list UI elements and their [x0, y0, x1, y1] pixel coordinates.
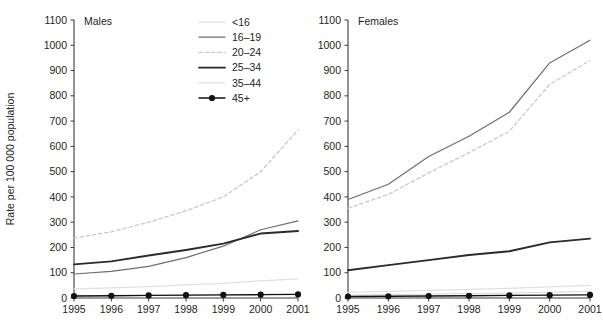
legend-label-25-34: 25–34: [232, 61, 261, 73]
series-marker-45+: [345, 293, 351, 299]
y-tick-label: 500: [323, 165, 341, 177]
y-tick-label: 800: [49, 89, 67, 101]
series-line-16-19: [74, 221, 298, 274]
y-tick-label: 0: [61, 292, 67, 304]
y-tick-label: 400: [49, 191, 67, 203]
y-tick-label: 500: [49, 165, 67, 177]
series-marker-45+: [258, 292, 264, 298]
x-tick-label: 1995: [62, 303, 86, 315]
x-tick-label: 2001: [286, 303, 310, 315]
y-tick-label: 400: [323, 191, 341, 203]
series-marker-45+: [183, 292, 189, 298]
x-tick-label: 1996: [377, 303, 401, 315]
y-tick-label: 100: [323, 266, 341, 278]
x-tick-label: 1996: [100, 303, 124, 315]
x-tick-label: 2001: [578, 303, 602, 315]
y-tick-label: 1000: [318, 39, 342, 51]
y-tick-label: 200: [49, 241, 67, 253]
x-tick-label: 2000: [538, 303, 562, 315]
y-tick-label: 800: [323, 89, 341, 101]
panel-title-males: Males: [84, 15, 112, 27]
y-tick-label: 700: [323, 115, 341, 127]
panel-females: 0100200300400500600700800900100011001995…: [318, 14, 602, 315]
x-tick-label: 1998: [174, 303, 198, 315]
series-marker-45+: [587, 292, 593, 298]
series-marker-45+: [506, 292, 512, 298]
legend-label-16-19: 16–19: [232, 31, 261, 43]
x-tick-label: 1997: [137, 303, 161, 315]
y-tick-label: 300: [49, 216, 67, 228]
legend-marker-45+: [209, 95, 215, 101]
figure-container: 0100200300400500600700800900100011001995…: [0, 0, 603, 326]
y-tick-label: 700: [49, 115, 67, 127]
panel-title-females: Females: [358, 15, 398, 27]
y-tick-label: 900: [323, 64, 341, 76]
panel-males: 0100200300400500600700800900100011001995…: [44, 14, 310, 315]
series-marker-45+: [108, 293, 114, 299]
series-line-25-34: [74, 231, 298, 264]
series-marker-45+: [220, 292, 226, 298]
y-tick-label: 0: [335, 292, 341, 304]
y-tick-label: 600: [49, 140, 67, 152]
y-axis-title: Rate per 100 000 population: [4, 93, 16, 226]
series-marker-45+: [466, 293, 472, 299]
legend-label--16: <16: [232, 16, 250, 28]
legend-label-45+: 45+: [232, 92, 250, 104]
y-tick-label: 200: [323, 241, 341, 253]
series-marker-45+: [547, 292, 553, 298]
y-tick-label: 600: [323, 140, 341, 152]
series-marker-45+: [71, 293, 77, 299]
series-line-25-34: [348, 239, 590, 271]
series-marker-45+: [295, 291, 301, 297]
series-marker-45+: [426, 293, 432, 299]
y-tick-label: 1100: [44, 14, 67, 26]
y-tick-label: 900: [49, 64, 67, 76]
x-tick-label: 1998: [457, 303, 481, 315]
series-line-35-44: [74, 279, 298, 289]
series-line-20-24: [74, 130, 298, 238]
series-marker-45+: [146, 292, 152, 298]
x-tick-label: 1997: [417, 303, 441, 315]
y-tick-label: 300: [323, 216, 341, 228]
series-line-35-44: [348, 285, 590, 292]
legend: <1616–1920–2425–3435–4445+: [199, 16, 261, 104]
y-tick-label: 1100: [318, 14, 341, 26]
x-tick-label: 1999: [498, 303, 522, 315]
dual-line-chart: 0100200300400500600700800900100011001995…: [0, 0, 603, 326]
legend-label-20-24: 20–24: [232, 46, 261, 58]
series-line-16-19: [348, 40, 590, 199]
x-tick-label: 2000: [249, 303, 273, 315]
x-tick-label: 1999: [212, 303, 236, 315]
series-marker-45+: [385, 293, 391, 299]
y-tick-label: 100: [49, 266, 67, 278]
y-tick-label: 1000: [44, 39, 68, 51]
legend-label-35-44: 35–44: [232, 77, 261, 89]
x-tick-label: 1995: [336, 303, 360, 315]
